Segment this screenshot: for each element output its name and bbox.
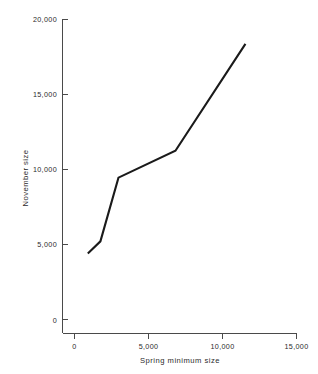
y-axis-title: November size [21, 149, 30, 206]
y-tick-label-0: 0 [53, 316, 57, 325]
x-tick-label-10000: 10,000 [210, 342, 234, 351]
y-tick-label-10000: 10,000 [33, 165, 57, 174]
y-tick-label-20000: 20,000 [33, 15, 57, 24]
y-tick-label-5000: 5,000 [37, 240, 57, 249]
chart-background [0, 0, 318, 374]
x-axis-title: Spring minimum size [140, 356, 220, 365]
chart-page: 20,000 15,000 10,000 5,000 0 0 5,000 10,… [0, 0, 318, 374]
x-tick-label-15000: 15,000 [284, 342, 308, 351]
line-chart: 20,000 15,000 10,000 5,000 0 0 5,000 10,… [0, 0, 318, 374]
x-tick-label-5000: 5,000 [139, 342, 159, 351]
x-tick-label-0: 0 [72, 342, 76, 351]
y-tick-label-15000: 15,000 [33, 90, 57, 99]
